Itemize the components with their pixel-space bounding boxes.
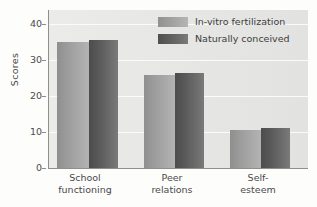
legend: In-vitro fertilization Naturally conceiv… — [158, 14, 290, 48]
y-tick-mark-20 — [42, 96, 46, 97]
y-tick-label-30: 30 — [20, 55, 42, 65]
bar-peer-relations-ivf — [144, 75, 175, 168]
x-label-school-functioning-line1: School — [46, 172, 124, 184]
plot-area: In-vitro fertilization Naturally conceiv… — [48, 10, 308, 168]
y-tick-mark-30 — [42, 60, 46, 61]
bar-school-functioning-ivf — [57, 42, 89, 168]
y-axis-tick-labels: 40 30 20 10 0 — [16, 0, 42, 207]
legend-label-ivf: In-vitro fertilization — [195, 16, 285, 27]
bar-chart-figure: Scores 40 30 20 10 0 In-vitro fertiliza — [0, 0, 317, 207]
x-label-self-esteem-line2: esteem — [219, 184, 297, 196]
x-label-peer-relations-line2: relations — [133, 184, 211, 196]
legend-label-natural: Naturally conceived — [195, 33, 290, 44]
x-label-school-functioning: School functioning — [46, 172, 124, 195]
bar-peer-relations-natural — [175, 73, 204, 168]
bar-self-esteem-natural — [261, 128, 290, 168]
x-label-school-functioning-line2: functioning — [46, 184, 124, 196]
x-label-self-esteem-line1: Self- — [219, 172, 297, 184]
legend-swatch-natural — [158, 34, 188, 44]
x-label-peer-relations-line1: Peer — [133, 172, 211, 184]
y-tick-mark-0 — [42, 168, 46, 169]
y-tick-label-40: 40 — [20, 19, 42, 29]
y-tick-mark-10 — [42, 132, 46, 133]
y-tick-label-0: 0 — [20, 163, 42, 173]
legend-swatch-ivf — [158, 17, 188, 27]
x-label-self-esteem: Self- esteem — [219, 172, 297, 195]
x-label-peer-relations: Peer relations — [133, 172, 211, 195]
bar-self-esteem-ivf — [230, 130, 261, 168]
legend-item-natural: Naturally conceived — [158, 31, 290, 46]
legend-item-ivf: In-vitro fertilization — [158, 14, 290, 29]
bar-school-functioning-natural — [89, 40, 118, 168]
y-tick-label-20: 20 — [20, 91, 42, 101]
y-tick-mark-40 — [42, 24, 46, 25]
y-tick-label-10: 10 — [20, 127, 42, 137]
